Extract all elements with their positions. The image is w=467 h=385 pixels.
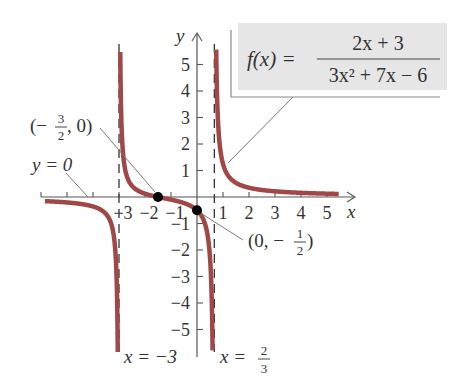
x-tick-label: 3 [271,203,280,223]
y-tick-label: −3 [171,267,190,287]
x-tick-label: 4 [297,203,306,223]
curve-branch [120,52,212,350]
horizontal-asymptote-leader-line [66,173,88,197]
svg-text:2: 2 [58,128,65,143]
x-tick-label: −3 [113,203,132,223]
svg-text:, 0): , 0) [67,115,92,137]
function-curve [45,50,339,352]
svg-text:): ) [307,230,313,252]
vertical-asymptote-right-label: x = 2 3 [219,343,270,376]
x-tick-label: 5 [323,203,332,223]
svg-text:1: 1 [297,226,304,241]
svg-text:(0, −: (0, − [248,230,284,252]
y-tick-label: −4 [171,293,190,313]
horizontal-asymptote-label: y = 0 [30,154,73,175]
formula-numerator: 2x + 3 [352,32,403,54]
x-tick-label: −2 [139,203,158,223]
point-b-label: (0, − 1 2 ) [248,226,313,258]
x-tick-label: 1 [219,203,228,223]
x-tick-label: 2 [245,203,254,223]
y-tick-label: 5 [181,55,190,75]
point-a-label: (− 3 2 , 0) [30,111,92,143]
y-tick-label: 3 [181,108,190,128]
y-axis-label: y [174,25,185,46]
svg-text:3: 3 [261,361,268,376]
vertical-asymptote-left-label: x = −3 [123,346,177,367]
y-tick-label: −2 [171,240,190,260]
y-tick-label: 4 [181,81,190,101]
x-axis-label: x [346,201,356,222]
formula-box: f(x) = 2x + 3 3x² + 7x − 6 [228,23,447,163]
formula-lhs: f(x) = [247,47,296,71]
formula-denominator: 3x² + 7x − 6 [329,64,428,86]
y-tick-label: −1 [171,214,190,234]
y-tick-label: −5 [171,320,190,340]
svg-text:2: 2 [261,343,268,358]
y-tick-label: 1 [181,161,190,181]
svg-text:2: 2 [297,243,304,258]
function-graph: f(x) = 2x + 3 3x² + 7x − 6 x y −3−2−1123… [0,0,467,385]
key-point-marker [153,192,163,202]
svg-text:(−: (− [30,115,47,137]
y-tick-label: 2 [181,134,190,154]
key-point-marker [192,205,202,215]
svg-text:x =: x = [219,346,246,367]
curve-branch [45,201,118,352]
formula-leader-line [228,97,293,163]
svg-text:3: 3 [58,111,65,126]
